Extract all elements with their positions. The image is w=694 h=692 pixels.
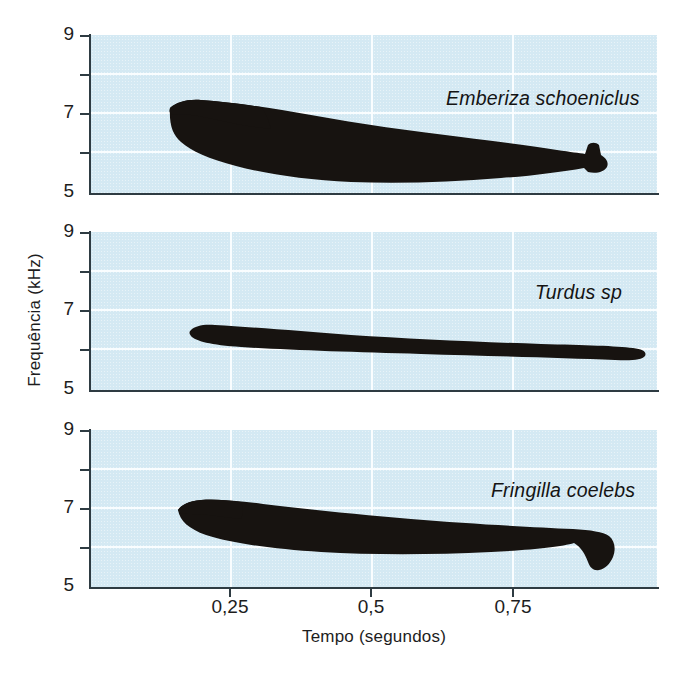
y-tick-8-panel-0 [80, 74, 91, 76]
spectrogram-trace-fringilla [91, 430, 657, 588]
spectrogram-trace-turdus [91, 232, 657, 390]
y-tick-label-7-panel-1: 7 [40, 299, 74, 318]
x-axis-spine-panel-0 [89, 193, 659, 195]
y-tick-7-panel-1 [80, 310, 91, 312]
y-tick-7-panel-2 [80, 508, 91, 510]
x-tick-label-075: 0,75 [495, 596, 532, 618]
y-tick-7-panel-0 [80, 113, 91, 115]
x-axis-spine-panel-2 [89, 587, 659, 589]
y-tick-9-panel-2 [80, 430, 91, 432]
x-tick-label-05: 0,5 [358, 596, 384, 618]
y-tick-label-7-panel-2: 7 [40, 497, 74, 516]
x-tick-label-025: 0,25 [212, 596, 249, 618]
y-tick-9-panel-1 [80, 232, 91, 234]
y-tick-9-panel-0 [80, 35, 91, 37]
y-tick-label-5-panel-1: 5 [40, 378, 74, 397]
y-tick-label-9-panel-1: 9 [40, 221, 74, 240]
panel-fringilla-coelebs: Fringilla coelebs [91, 430, 657, 587]
y-tick-6-panel-1 [80, 349, 91, 351]
y-tick-8-panel-1 [80, 271, 91, 273]
y-tick-8-panel-2 [80, 469, 91, 471]
species-label-fringilla: Fringilla coelebs [491, 479, 635, 502]
y-tick-6-panel-2 [80, 547, 91, 549]
spectrogram-trace-emberiza [91, 35, 657, 193]
y-tick-label-5-panel-2: 5 [40, 575, 74, 594]
x-axis-spine-panel-1 [89, 390, 659, 392]
spectrogram-figure: Frequência (kHz) Tempo (segundos) Emberi… [0, 0, 694, 692]
panel-emberiza-schoeniclus: Emberiza schoeniclus [91, 35, 657, 193]
y-tick-label-9-panel-0: 9 [40, 24, 74, 43]
y-tick-6-panel-0 [80, 152, 91, 154]
y-tick-label-9-panel-2: 9 [40, 419, 74, 438]
x-axis-title: Tempo (segundos) [91, 627, 657, 647]
y-tick-label-5-panel-0: 5 [40, 181, 74, 200]
species-label-emberiza: Emberiza schoeniclus [446, 87, 640, 110]
y-tick-label-7-panel-0: 7 [40, 102, 74, 121]
species-label-turdus: Turdus sp [535, 281, 622, 304]
panel-turdus-sp: Turdus sp [91, 232, 657, 390]
